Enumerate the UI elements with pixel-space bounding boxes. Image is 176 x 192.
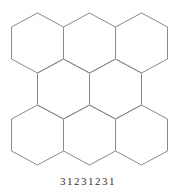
hexagon-cell <box>64 105 116 165</box>
sequence-caption: 31231231 <box>0 175 176 187</box>
hexagon-cell <box>116 13 168 73</box>
hexagon-grid <box>0 0 176 172</box>
hexagon-cell <box>90 59 142 119</box>
hexagon-cell <box>38 59 90 119</box>
hexagon-cell <box>64 13 116 73</box>
hexagon-cell <box>116 105 168 165</box>
hexagon-cell <box>12 13 64 73</box>
hexagon-cell <box>12 105 64 165</box>
